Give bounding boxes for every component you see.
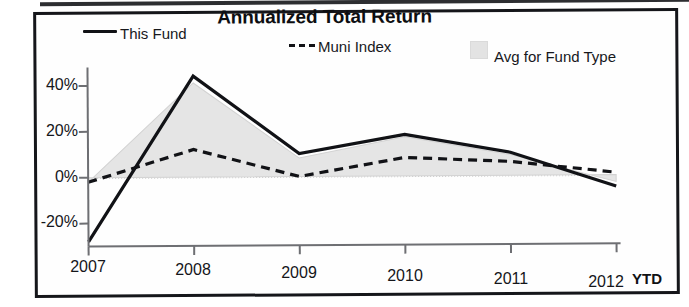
y-axis	[87, 68, 88, 247]
area-avg-for-fund-type	[88, 80, 617, 184]
x-tick-label-2008: 2008	[158, 261, 228, 279]
y-tick-label-minus-20: -20%	[16, 213, 78, 231]
x-axis	[89, 243, 621, 246]
x-tick-label-2007: 2007	[53, 258, 123, 276]
x-tick-label-2009: 2009	[264, 264, 334, 282]
y-tick-label-0: 0%	[16, 168, 78, 186]
x-tick-label-2012: 2012	[571, 273, 641, 291]
y-tick-label-20: 20%	[16, 122, 78, 140]
x-tick-label-2011: 2011	[476, 270, 546, 288]
y-tick-label-40: 40%	[16, 76, 78, 94]
x-axis-ytd-label: YTD	[632, 270, 662, 287]
x-tick-label-2010: 2010	[370, 267, 440, 285]
annualized-total-return-chart: Annualized Total Return This Fund Muni I…	[0, 0, 689, 307]
chart-screenshot: Annualized Total Return This Fund Muni I…	[0, 0, 689, 307]
